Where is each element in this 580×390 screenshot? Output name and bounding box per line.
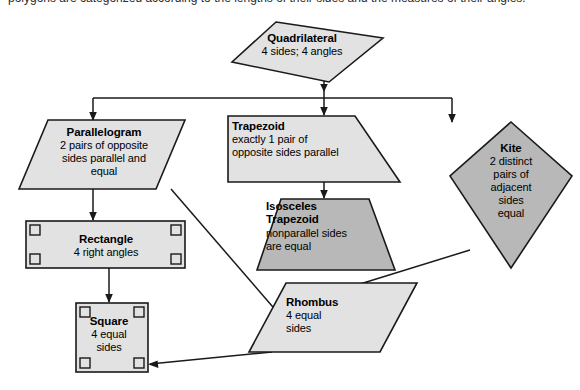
arrowhead-isosceles-trapezoid bbox=[320, 190, 328, 199]
shape-isosceles-trapezoid bbox=[257, 199, 395, 270]
shape-quadrilateral bbox=[232, 22, 383, 82]
arrowhead-quadrilateral-to-bus bbox=[320, 84, 328, 92]
shape-trapezoid bbox=[228, 116, 400, 182]
arrowhead-square-from-rectangle bbox=[105, 294, 113, 303]
arrowhead-rectangle bbox=[89, 212, 97, 221]
shape-square bbox=[76, 303, 148, 372]
diagram-graphics bbox=[0, 0, 580, 390]
arrowhead-kite bbox=[448, 114, 456, 123]
arrowhead-trapezoid bbox=[320, 107, 328, 116]
edge-rhombus-to-square bbox=[150, 352, 272, 364]
shape-kite bbox=[450, 122, 572, 268]
quadrilateral-hierarchy-diagram: polygons are categorized according to th… bbox=[0, 0, 580, 390]
shape-parallelogram bbox=[19, 120, 185, 189]
shape-rectangle bbox=[26, 221, 185, 268]
arrowhead-square-from-rhombus bbox=[148, 360, 158, 368]
shape-rhombus bbox=[249, 283, 417, 352]
